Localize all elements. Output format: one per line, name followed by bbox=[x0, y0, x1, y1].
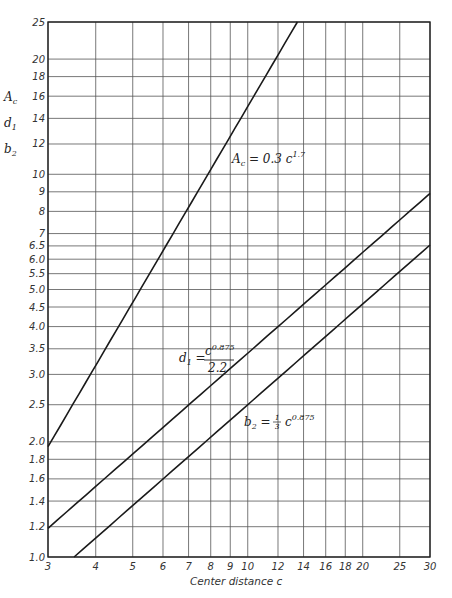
x-tick-label: 20 bbox=[356, 561, 369, 572]
y-tick-label: 6.0 bbox=[29, 254, 45, 265]
series-line-d1 bbox=[48, 193, 430, 528]
y-tick-label: 3.5 bbox=[29, 343, 45, 354]
y-label-b2: b2 bbox=[4, 142, 17, 158]
y-tick-label: 2.0 bbox=[29, 436, 45, 447]
log-log-chart: 34567891012141618202530 1.01.21.41.61.82… bbox=[0, 0, 452, 598]
y-tick-label: 18 bbox=[32, 71, 45, 82]
x-tick-label: 4 bbox=[93, 561, 99, 572]
y-tick-label: 12 bbox=[32, 138, 45, 149]
series-line-ac bbox=[48, 22, 297, 447]
series-label-ac: Ac = 0.3 c1.7 bbox=[231, 150, 306, 168]
y-tick-label: 9 bbox=[39, 186, 45, 197]
x-tick-label: 8 bbox=[208, 561, 214, 572]
y-label-ac: Ac bbox=[3, 90, 18, 106]
svg-text:c0.875: c0.875 bbox=[285, 413, 315, 429]
series-line-b2 bbox=[74, 245, 430, 557]
x-tick-label: 14 bbox=[297, 561, 310, 572]
x-axis-tick-labels: 34567891012141618202530 bbox=[45, 561, 437, 572]
y-tick-label: 20 bbox=[32, 54, 45, 65]
y-tick-label: 4.5 bbox=[29, 302, 45, 313]
svg-text:3: 3 bbox=[275, 423, 280, 431]
y-tick-label: 6.5 bbox=[29, 240, 45, 251]
x-tick-label: 7 bbox=[185, 561, 192, 572]
y-tick-label: 1.2 bbox=[29, 521, 45, 532]
y-tick-label: 2.5 bbox=[29, 399, 45, 410]
y-tick-label: 3.0 bbox=[29, 369, 45, 380]
y-tick-label: 1.6 bbox=[29, 473, 45, 484]
x-tick-label: 6 bbox=[160, 561, 166, 572]
y-tick-label: 5.5 bbox=[29, 268, 45, 279]
y-tick-label: 16 bbox=[32, 91, 45, 102]
x-tick-label: 9 bbox=[227, 561, 233, 572]
x-tick-label: 25 bbox=[393, 561, 406, 572]
y-tick-label: 1.0 bbox=[29, 552, 45, 563]
y-tick-label: 10 bbox=[32, 169, 45, 180]
svg-text:d1 =: d1 = bbox=[179, 351, 206, 367]
y-tick-label: 4.0 bbox=[29, 321, 45, 332]
svg-text:b2 =: b2 = bbox=[244, 415, 271, 431]
y-tick-label: 7 bbox=[39, 228, 46, 239]
x-axis-title: Center distance c bbox=[190, 575, 283, 587]
x-tick-label: 16 bbox=[319, 561, 332, 572]
x-tick-label: 12 bbox=[272, 561, 285, 572]
y-label-d1: d1 bbox=[4, 116, 17, 132]
x-tick-label: 5 bbox=[130, 561, 136, 572]
y-tick-label: 25 bbox=[32, 17, 45, 28]
svg-text:1: 1 bbox=[275, 414, 279, 422]
y-tick-label: 1.8 bbox=[29, 454, 45, 465]
series-label-d1: d1 = c0.875 2.2 bbox=[179, 343, 235, 375]
grid-lines bbox=[48, 22, 430, 557]
series-label-b2: b2 = 1 3 c0.875 bbox=[244, 413, 315, 431]
svg-text:2.2: 2.2 bbox=[207, 361, 227, 375]
y-tick-label: 14 bbox=[32, 113, 45, 124]
y-tick-label: 8 bbox=[39, 206, 45, 217]
y-tick-label: 5.0 bbox=[29, 284, 45, 295]
y-axis-tick-labels: 1.01.21.41.61.82.02.53.03.54.04.55.05.56… bbox=[29, 17, 46, 563]
y-tick-label: 1.4 bbox=[29, 496, 45, 507]
x-tick-label: 18 bbox=[339, 561, 352, 572]
x-tick-label: 30 bbox=[424, 561, 437, 572]
x-tick-label: 10 bbox=[241, 561, 254, 572]
x-tick-label: 3 bbox=[45, 561, 51, 572]
